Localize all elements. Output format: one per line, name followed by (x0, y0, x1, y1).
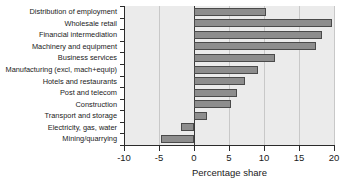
category-label: Manufacturing (excl, mach+equip) (5, 64, 117, 76)
bar[interactable] (194, 42, 316, 50)
y-axis-line (124, 6, 125, 146)
bar-row (124, 76, 334, 88)
plot-area (124, 6, 334, 145)
y-axis-tick (120, 99, 124, 100)
bar-row (124, 18, 334, 30)
category-axis-labels: Distribution of employmentWholesale reta… (0, 6, 119, 145)
x-axis-tick-label: -10 (109, 152, 139, 163)
x-axis-tick-label: 5 (214, 152, 244, 163)
bar-row (124, 64, 334, 76)
y-axis-tick (120, 87, 124, 88)
x-axis-tick (159, 146, 160, 151)
bar-row (124, 41, 334, 53)
y-axis-tick (120, 29, 124, 30)
y-axis-tick (120, 110, 124, 111)
bar[interactable] (194, 8, 266, 16)
x-axis-tick (299, 146, 300, 151)
x-axis-tick-label: 0 (179, 152, 209, 163)
y-axis-tick (120, 133, 124, 134)
x-axis-tick-label: 20 (319, 152, 345, 163)
category-label: Distribution of employment (30, 6, 118, 18)
x-axis-tick-label: 15 (284, 152, 314, 163)
bar[interactable] (181, 123, 194, 131)
bar-row (124, 122, 334, 134)
category-label: Electricity, gas, water (48, 122, 117, 134)
bar[interactable] (194, 31, 322, 39)
bar-row (124, 133, 334, 145)
gridline-x-20 (334, 6, 335, 145)
bar[interactable] (194, 54, 275, 62)
y-axis-tick (120, 18, 124, 19)
bar[interactable] (194, 77, 245, 85)
category-label: Post and telecom (60, 87, 117, 99)
x-axis-tick-label: 10 (249, 152, 279, 163)
bar-row (124, 6, 334, 18)
y-axis-tick (120, 52, 124, 53)
bar-row (124, 87, 334, 99)
chart-figure: Distribution of employmentWholesale reta… (0, 0, 345, 188)
bar-row (124, 29, 334, 41)
y-axis-tick (120, 64, 124, 65)
x-axis-tick (194, 146, 195, 151)
y-axis-tick (120, 76, 124, 77)
category-label: Machinery and equipment (32, 41, 117, 53)
category-label: Construction (76, 99, 118, 111)
bar-row (124, 99, 334, 111)
y-axis-tick (120, 41, 124, 42)
category-label: Business services (58, 52, 117, 64)
category-label: Transport and storage (45, 110, 117, 122)
bar[interactable] (194, 19, 332, 27)
bar[interactable] (194, 112, 207, 120)
category-label: Mining/quarrying (62, 133, 117, 145)
category-label: Wholesale retail (64, 18, 117, 30)
bar[interactable] (194, 66, 258, 74)
bar-row (124, 110, 334, 122)
y-axis-tick (120, 6, 124, 7)
category-label: Hotels and restaurants (43, 76, 117, 88)
x-axis-tick (334, 146, 335, 151)
category-label: Financial intermediation (39, 29, 117, 41)
bar-row (124, 52, 334, 64)
x-axis-tick (264, 146, 265, 151)
x-axis-tick (229, 146, 230, 151)
bar[interactable] (194, 100, 231, 108)
x-axis-title: Percentage share (124, 167, 335, 178)
x-axis-tick-label: -5 (144, 152, 174, 163)
bar[interactable] (194, 89, 237, 97)
bar[interactable] (161, 135, 194, 143)
y-axis-tick (120, 122, 124, 123)
x-axis-tick (124, 146, 125, 151)
